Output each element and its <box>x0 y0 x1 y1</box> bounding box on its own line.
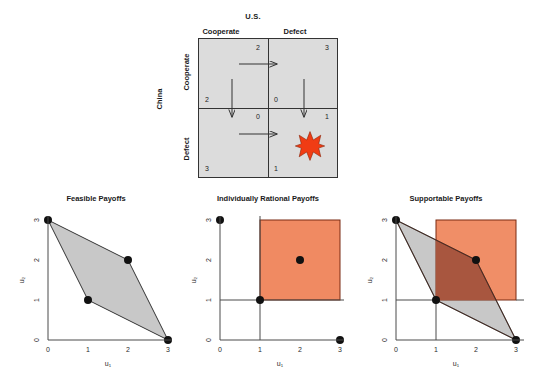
plot-supportable-svg: 0 1 2 3 0 1 2 3 u₁ u₂ <box>356 202 536 370</box>
svg-text:2: 2 <box>126 346 130 353</box>
svg-text:1: 1 <box>205 298 212 302</box>
ir-ylabel: u₂ <box>190 276 197 283</box>
svg-text:0: 0 <box>381 338 388 342</box>
svg-text:2: 2 <box>205 258 212 262</box>
supportable-xtick-labels: 0 1 2 3 <box>394 346 518 353</box>
svg-text:2: 2 <box>298 346 302 353</box>
figure-canvas: U.S. Cooperate Defect China Cooperate De… <box>0 0 536 374</box>
svg-text:1: 1 <box>434 346 438 353</box>
svg-text:0: 0 <box>33 338 40 342</box>
svg-text:1: 1 <box>86 346 90 353</box>
column-player-label: U.S. <box>160 12 346 21</box>
cell-cooperate-defect: 3 0 <box>268 39 337 108</box>
cell-cooperate-cooperate: 2 2 <box>199 39 268 108</box>
ir-ytick-labels: 0 1 2 3 <box>205 218 212 342</box>
svg-text:0: 0 <box>218 346 222 353</box>
plot-feasible-payoffs: Feasible Payoffs 0 1 2 3 0 1 <box>8 194 184 374</box>
svg-text:1: 1 <box>33 298 40 302</box>
svg-text:3: 3 <box>166 346 170 353</box>
row-action-defect: Defect <box>182 138 191 161</box>
svg-text:1: 1 <box>258 346 262 353</box>
cell-dd-row-payoff: 1 <box>274 165 278 172</box>
cell-cc-column-payoff: 2 <box>256 44 260 51</box>
plot-feasible-svg: 0 1 2 3 0 1 2 3 u₁ u₂ <box>8 202 184 370</box>
column-action-cooperate: Cooperate <box>189 27 253 36</box>
plot-supportable-payoffs: Supportable Payoffs <box>356 194 536 374</box>
supportable-ytick-labels: 0 1 2 3 <box>381 218 388 342</box>
svg-text:3: 3 <box>381 218 388 222</box>
cell-dc-column-payoff: 0 <box>256 113 260 120</box>
row-player-label: China <box>155 89 164 110</box>
matrix-grid: 2 2 3 0 0 3 1 1 <box>198 38 338 178</box>
svg-text:3: 3 <box>205 218 212 222</box>
feasible-xtick-labels: 0 1 2 3 <box>46 346 170 353</box>
svg-text:2: 2 <box>381 258 388 262</box>
svg-text:0: 0 <box>46 346 50 353</box>
svg-text:3: 3 <box>514 346 518 353</box>
cell-defect-cooperate: 0 3 <box>199 108 268 177</box>
svg-text:2: 2 <box>33 258 40 262</box>
cell-cd-row-payoff: 0 <box>274 96 278 103</box>
starburst-icon <box>295 131 325 161</box>
svg-text:3: 3 <box>33 218 40 222</box>
plot-individually-rational-payoffs: Individually Rational Payoffs 0 1 2 <box>180 194 356 374</box>
ir-xtick-labels: 0 1 2 3 <box>218 346 342 353</box>
feasible-ylabel: u₂ <box>18 276 25 283</box>
feasible-polygon <box>48 220 168 340</box>
plot-ir-svg: 0 1 2 3 0 1 2 3 u₁ u₂ <box>180 202 356 370</box>
column-action-defect: Defect <box>263 27 327 36</box>
cell-dc-row-payoff: 3 <box>205 165 209 172</box>
feasible-xlabel: u₁ <box>105 360 112 367</box>
cell-dd-column-payoff: 1 <box>325 113 329 120</box>
cell-cc-row-payoff: 2 <box>205 96 209 103</box>
feasible-ytick-labels: 0 1 2 3 <box>33 218 40 342</box>
supportable-ylabel: u₂ <box>366 276 373 283</box>
supportable-xlabel: u₁ <box>453 360 460 367</box>
svg-text:3: 3 <box>338 346 342 353</box>
payoff-matrix: U.S. Cooperate Defect China Cooperate De… <box>160 4 346 194</box>
cell-cd-column-payoff: 3 <box>325 44 329 51</box>
svg-text:0: 0 <box>394 346 398 353</box>
svg-text:2: 2 <box>474 346 478 353</box>
svg-text:1: 1 <box>381 298 388 302</box>
row-action-cooperate: Cooperate <box>182 53 191 90</box>
svg-text:0: 0 <box>205 338 212 342</box>
ir-xlabel: u₁ <box>277 360 284 367</box>
